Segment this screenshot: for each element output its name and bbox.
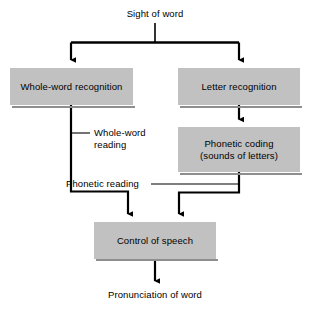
node-label-phonetic-coding-line1: Phonetic coding [204,138,273,150]
edge-label-phonetic-reading: Phonetic reading [66,178,139,190]
node-whole-word-recognition: Whole-word recognition [10,68,133,105]
edge-phonetic-reading-to-control-of-speech [179,172,239,214]
box-shadow-whole-word-recognition [12,106,135,108]
box-shadow-control-of-speech [96,259,218,261]
reading-model-flow-diagram: Sight of word Whole-word recognition Let… [0,0,310,311]
node-label-phonetic-coding-line2: (sounds of letters) [200,150,278,162]
node-phonetic-coding: Phonetic coding (sounds of letters) [178,127,300,172]
node-letter-recognition: Letter recognition [178,68,300,105]
output-label-pronunciation-of-word: Pronunciation of word [0,289,310,301]
node-label-whole-word-recognition: Whole-word recognition [21,81,123,93]
edge-whole-word-reading-to-control-of-speech [71,105,128,214]
node-control-of-speech: Control of speech [94,222,216,259]
input-label-sight-of-word: Sight of word [0,8,310,20]
edge-label-whole-word-reading-line1: Whole-word [94,127,146,139]
node-label-letter-recognition: Letter recognition [201,81,276,93]
node-label-control-of-speech: Control of speech [117,235,193,247]
box-shadow-letter-recognition [180,106,302,108]
box-shadow-phonetic-coding [180,173,302,175]
edge-label-whole-word-reading-line2: reading [94,139,126,151]
